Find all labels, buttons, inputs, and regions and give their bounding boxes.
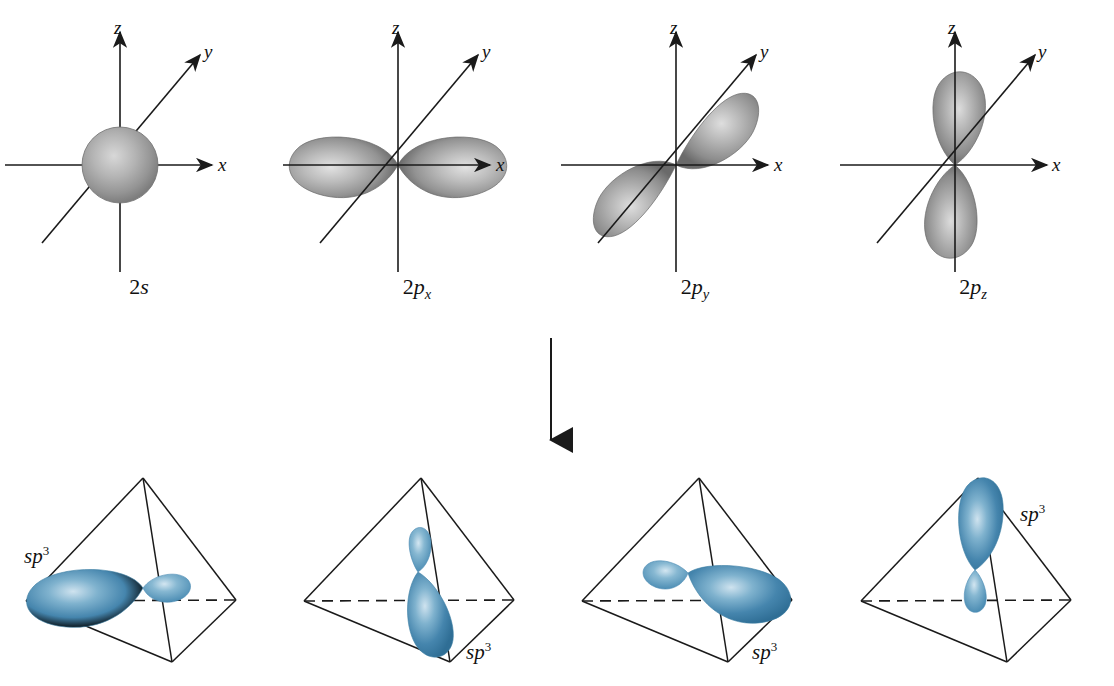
- axis-label-z: z: [392, 18, 399, 37]
- axis-label-z: z: [670, 18, 677, 37]
- tetra-edge-left-front: [582, 601, 728, 662]
- hybrid-label-3: sp3: [752, 640, 777, 663]
- axis-label-x: x: [1052, 155, 1060, 174]
- tetra-edge-apex-left: [304, 478, 421, 601]
- hybrid-lobe-minor: [964, 570, 986, 612]
- figure-canvas: z y x 2s: [0, 0, 1114, 686]
- tetrahedron-4-graphic: [834, 460, 1114, 686]
- orbital-2s-graphic: [0, 0, 278, 320]
- hybrid-panel-4: sp3: [834, 460, 1112, 686]
- tetrahedron-2-graphic: [278, 460, 556, 686]
- axis-label-y: y: [760, 42, 768, 61]
- orbital-2pz-graphic: [834, 0, 1114, 320]
- axis-label-z: z: [948, 18, 955, 37]
- axis-label-y: y: [482, 42, 490, 61]
- tetra-edge-apex-right: [421, 478, 514, 600]
- hybridization-arrow: [0, 322, 1114, 462]
- orbital-lobe-s: [82, 127, 158, 203]
- orbital-lobe-negative-x: [289, 137, 398, 198]
- hybrid-label-2: sp3: [466, 640, 491, 663]
- hybrid-label-4: sp3: [1020, 502, 1045, 525]
- axis-label-x: x: [774, 155, 782, 174]
- tetra-edge-right-front: [1007, 600, 1071, 662]
- orbital-label-2py: 2py: [556, 276, 834, 302]
- hybridization-transition: 混成: [0, 322, 1114, 462]
- tetra-edge-right-front: [172, 600, 236, 662]
- hybrid-panel-2: sp3: [278, 460, 556, 686]
- hybrid-panel-1: sp3: [0, 460, 278, 686]
- orbital-lobe-negative-z: [925, 165, 978, 258]
- hybrid-lobe-major: [688, 565, 791, 623]
- hybrid-lobe-minor: [409, 527, 431, 572]
- orbital-panel-2px: z y x 2px: [278, 0, 556, 320]
- orbital-panel-2s: z y x 2s: [0, 0, 278, 320]
- tetra-edge-left-front: [861, 601, 1007, 662]
- orbital-lobe-positive-x: [398, 137, 507, 198]
- hybrid-label-1: sp3: [24, 544, 49, 567]
- axis-label-z: z: [114, 18, 121, 37]
- orbital-lobe-positive-y: [676, 93, 759, 169]
- orbital-2py-graphic: [556, 0, 834, 320]
- axis-label-y: y: [204, 42, 212, 61]
- tetrahedron-1-graphic: [0, 460, 278, 686]
- axis-label-x: x: [496, 155, 504, 174]
- hybrid-panel-3: sp3: [556, 460, 834, 686]
- hybrid-lobe-minor: [143, 574, 191, 602]
- orbital-label-2pz: 2pz: [834, 276, 1112, 302]
- hybrid-lobe-major: [408, 572, 454, 657]
- orbital-lobe-positive-z: [933, 72, 986, 165]
- axis-label-y: y: [1038, 42, 1046, 61]
- orbital-panel-2py: z y x 2py: [556, 0, 834, 320]
- tetra-edge-apex-front: [143, 478, 172, 662]
- hybrid-lobe-major: [27, 569, 143, 627]
- orbital-2px-graphic: [278, 0, 556, 320]
- hybrid-lobe-minor: [643, 561, 688, 589]
- tetrahedron-3-graphic: [556, 460, 834, 686]
- orbital-label-2px: 2px: [278, 276, 556, 302]
- hybrid-lobe-major: [959, 478, 1004, 570]
- orbital-panel-2pz: z y x 2pz: [834, 0, 1112, 320]
- axis-label-x: x: [218, 155, 226, 174]
- orbital-label-2s: 2s: [0, 276, 278, 298]
